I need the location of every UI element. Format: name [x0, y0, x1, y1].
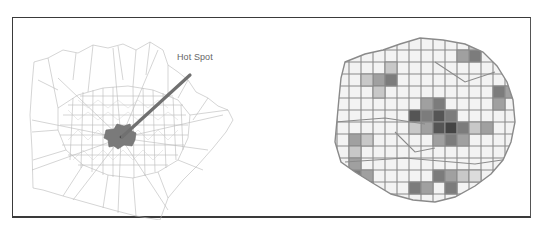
hot-spot-map [18, 20, 248, 220]
hot-spot-label: Hot Spot [177, 52, 213, 62]
hot-spot-arrow [122, 75, 190, 137]
county-choropleth [325, 22, 525, 217]
choropleth-map [325, 22, 525, 217]
county-tract-map [18, 20, 248, 220]
